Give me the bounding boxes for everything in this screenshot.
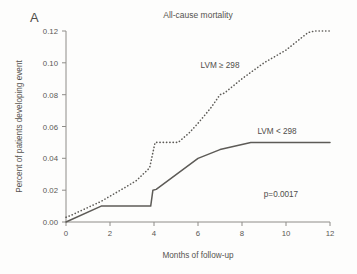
x-tick-label-4: 8 bbox=[240, 229, 244, 238]
x-tick-label-2: 4 bbox=[152, 229, 157, 238]
annotations-group: LVM ≥ 298 LVM < 298 p=0.0017 bbox=[201, 61, 299, 199]
x-axis-title: Months of follow-up bbox=[163, 251, 234, 260]
chart-title: All-cause mortality bbox=[163, 10, 233, 20]
chart-canvas: A All-cause mortality 0.12 0.10 0.08 0.0… bbox=[0, 0, 357, 274]
y-tick-labels: 0.12 0.10 0.08 0.06 0.04 0.02 0.00 bbox=[43, 27, 59, 227]
series-label-lvm-low: LVM < 298 bbox=[257, 127, 297, 136]
y-tick-label-6: 0.12 bbox=[43, 27, 58, 36]
series-label-lvm-high: LVM ≥ 298 bbox=[201, 61, 240, 70]
y-tick-label-0: 0.00 bbox=[43, 218, 59, 227]
x-tick-label-6: 12 bbox=[326, 229, 335, 238]
y-tick-label-5: 0.10 bbox=[43, 59, 59, 68]
y-tick-label-4: 0.08 bbox=[43, 91, 58, 100]
x-axis-ticks bbox=[66, 222, 330, 226]
x-tick-label-5: 10 bbox=[282, 229, 291, 238]
y-tick-label-2: 0.04 bbox=[43, 154, 59, 163]
x-tick-labels: 0 2 4 6 8 10 12 bbox=[64, 229, 335, 238]
y-tick-label-3: 0.06 bbox=[43, 123, 58, 132]
x-tick-label-3: 6 bbox=[196, 229, 200, 238]
x-axis: 0 2 4 6 8 10 12 Months of follow-up bbox=[64, 222, 335, 260]
y-axis-ticks bbox=[62, 31, 66, 222]
p-value-label: p=0.0017 bbox=[264, 190, 299, 199]
panel-label: A bbox=[30, 10, 39, 25]
y-tick-label-1: 0.02 bbox=[43, 186, 58, 195]
series-curve-lvm-low bbox=[66, 142, 330, 222]
x-tick-label-1: 2 bbox=[108, 229, 112, 238]
x-tick-label-0: 0 bbox=[64, 229, 69, 238]
y-axis-title: Percent of patients developing event bbox=[15, 60, 24, 193]
y-axis: 0.12 0.10 0.08 0.06 0.04 0.02 0.00 Perce… bbox=[15, 27, 66, 227]
figure-panel: A All-cause mortality 0.12 0.10 0.08 0.0… bbox=[0, 0, 357, 274]
